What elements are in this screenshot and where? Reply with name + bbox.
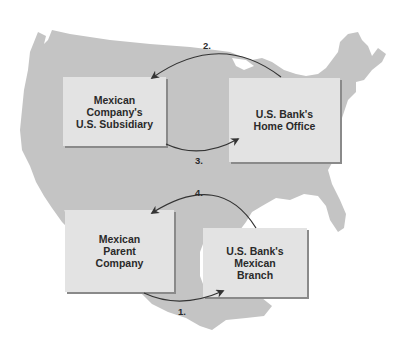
box-us-bank-home-office: U.S. Bank's Home Office [229,78,340,162]
box-line: U.S. Subsidiary [67,118,162,130]
box-line: Branch [226,269,283,281]
us-mexico-map [0,0,406,352]
box-line: Mexican [226,257,283,269]
box-line: U.S. Bank's [254,108,316,120]
box-line: Mexican Company's [67,94,162,118]
step-label-1: 1. [178,306,186,317]
box-line: Parent [96,245,144,257]
step-label-2: 2. [203,40,211,51]
box-line: Company [96,257,144,269]
step-label-4: 4. [195,187,203,198]
box-line: Mexican [96,233,144,245]
box-mexican-parent-company: Mexican Parent Company [65,210,174,292]
box-line: Home Office [254,120,316,132]
box-us-bank-mexican-branch: U.S. Bank's Mexican Branch [203,228,307,297]
box-line: U.S. Bank's [226,245,283,257]
box-mexican-company-us-subsidiary: Mexican Company's U.S. Subsidiary [63,77,166,146]
step-label-3: 3. [195,155,203,166]
